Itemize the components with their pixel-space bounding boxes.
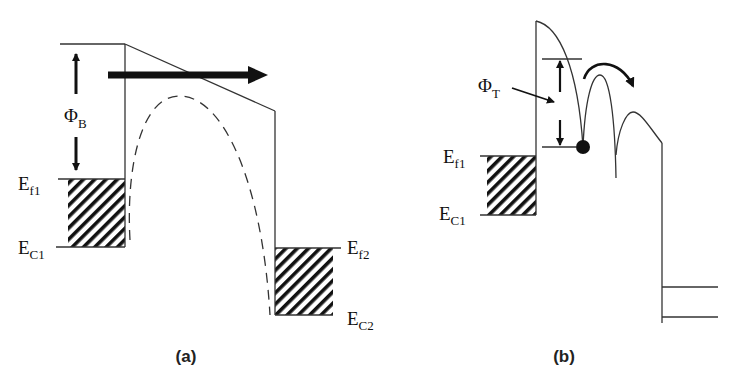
phi-b-label: ΦB: [64, 105, 87, 131]
hopping-arrow-icon: [584, 64, 633, 86]
ec2-label: EC2: [347, 308, 374, 333]
metal-1-filled-states: [68, 179, 125, 247]
panel-b: ΦT Ef1 EC1 (b): [439, 21, 718, 366]
phi-t-label: ΦT: [478, 75, 500, 101]
electron-dot: [576, 140, 590, 154]
dashed-barrier-profile: [129, 96, 270, 315]
band-diagram-figure: ΦB Ef1 EC1 Ef2 EC2 (a): [0, 0, 739, 386]
ec1-label-a: EC1: [18, 237, 45, 262]
metal-filled-states-b: [487, 156, 536, 215]
ef1-label-a: Ef1: [18, 173, 40, 198]
phi-t-pointer: [512, 88, 554, 102]
caption-b: (b): [553, 347, 575, 366]
metal-2-filled-states: [275, 248, 333, 315]
panel-a: ΦB Ef1 EC1 Ef2 EC2 (a): [18, 44, 374, 366]
caption-a: (a): [176, 347, 197, 366]
ec1-label-b: EC1: [439, 203, 466, 228]
emission-arrowhead: [248, 66, 268, 84]
ef1-label-b: Ef1: [443, 146, 465, 171]
ef2-label: Ef2: [347, 237, 369, 262]
